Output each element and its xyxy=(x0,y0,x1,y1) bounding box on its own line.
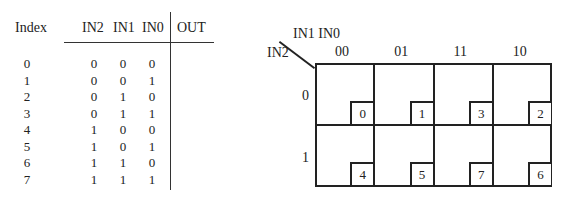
cell-in0: 1 xyxy=(145,172,159,188)
kmap-col-label: 10 xyxy=(513,44,527,60)
kmap-col-label: 00 xyxy=(335,44,349,60)
header-in2: IN2 xyxy=(82,20,104,36)
kmap-minterm-box: 1 xyxy=(410,101,433,124)
cell-in2: 1 xyxy=(87,172,101,188)
cell-index: 1 xyxy=(20,73,34,89)
cell-in1: 1 xyxy=(116,172,130,188)
cell-in0: 0 xyxy=(145,155,159,171)
header-divider xyxy=(64,42,214,43)
cell-in0: 0 xyxy=(145,89,159,105)
cell-index: 5 xyxy=(20,139,34,155)
header-in1: IN1 xyxy=(113,20,135,36)
cell-index: 7 xyxy=(20,172,34,188)
kmap-col-variable-label: IN1 IN0 xyxy=(293,26,340,42)
cell-in0: 1 xyxy=(145,73,159,89)
cell-in1: 0 xyxy=(116,122,130,138)
cell-index: 3 xyxy=(20,106,34,122)
out-column-divider xyxy=(170,12,171,190)
cell-in2: 0 xyxy=(87,106,101,122)
cell-in2: 1 xyxy=(87,155,101,171)
kmap-row-label: 1 xyxy=(302,150,309,166)
kmap-minterm-box: 3 xyxy=(469,101,492,124)
kmap-col-label: 11 xyxy=(454,44,467,60)
kmap-horizontal-divider xyxy=(315,124,552,126)
kmap-minterm-box: 4 xyxy=(350,162,373,185)
cell-in2: 1 xyxy=(87,122,101,138)
header-out: OUT xyxy=(177,20,206,36)
cell-index: 4 xyxy=(20,122,34,138)
cell-in1: 1 xyxy=(116,89,130,105)
kmap-minterm-box: 0 xyxy=(350,101,373,124)
cell-index: 6 xyxy=(20,155,34,171)
cell-in1: 1 xyxy=(116,155,130,171)
kmap-row-variable-label: IN2 xyxy=(267,45,289,61)
header-in0: IN0 xyxy=(142,20,164,36)
cell-in2: 0 xyxy=(87,73,101,89)
cell-in1: 1 xyxy=(116,106,130,122)
cell-in1: 0 xyxy=(116,73,130,89)
kmap-minterm-box: 7 xyxy=(469,162,492,185)
cell-in1: 0 xyxy=(116,139,130,155)
cell-in0: 0 xyxy=(145,56,159,72)
kmap-minterm-box: 6 xyxy=(528,162,551,185)
cell-in0: 1 xyxy=(145,139,159,155)
kmap-minterm-box: 2 xyxy=(528,101,551,124)
cell-in0: 1 xyxy=(145,106,159,122)
cell-index: 2 xyxy=(20,89,34,105)
kmap-minterm-box: 5 xyxy=(410,162,433,185)
kmap-col-label: 01 xyxy=(394,44,408,60)
kmap-row-label: 0 xyxy=(302,88,309,104)
cell-in2: 0 xyxy=(87,56,101,72)
cell-in2: 0 xyxy=(87,89,101,105)
cell-in1: 0 xyxy=(116,56,130,72)
header-index: Index xyxy=(15,20,47,36)
cell-in2: 1 xyxy=(87,139,101,155)
cell-in0: 0 xyxy=(145,122,159,138)
cell-index: 0 xyxy=(20,56,34,72)
